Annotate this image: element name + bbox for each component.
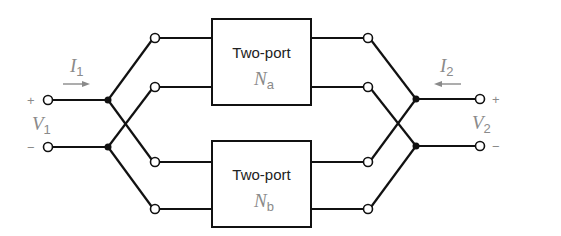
current-i2-arrow-icon [434, 81, 461, 87]
voltage-v1-label: V1 [32, 113, 51, 137]
terminal-port1-plus [44, 96, 53, 105]
terminal-nb-out-top [364, 158, 373, 167]
network-a-box [212, 19, 311, 105]
terminal-nb-in-top [151, 158, 160, 167]
network-b-label: Two-port [232, 166, 291, 183]
current-i1-label: I1 [69, 55, 84, 79]
current-i2-label: I2 [439, 55, 454, 79]
junction-dot [105, 97, 112, 104]
terminal-port1-minus [44, 143, 53, 152]
port2-wires [371, 40, 476, 207]
terminal-na-in-top [151, 34, 160, 43]
right-box-leads [311, 38, 364, 209]
port1-wires [52, 40, 152, 207]
terminal-port2-minus [476, 142, 485, 151]
port2-plus-sign: + [492, 92, 500, 107]
terminal-nb-in-bottom [151, 205, 160, 214]
left-box-leads [159, 38, 212, 209]
terminal-na-out-top [364, 34, 373, 43]
network-a-label: Two-port [232, 44, 291, 61]
terminal-port2-plus [476, 95, 485, 104]
terminal-na-out-bottom [364, 83, 373, 92]
circuit-svg: Two-port Na Two-port Nb I1 + V1 − I2 + V… [0, 0, 561, 236]
terminal-nb-out-bottom [364, 205, 373, 214]
two-port-parallel-diagram: Two-port Na Two-port Nb I1 + V1 − I2 + V… [0, 0, 561, 236]
port2-minus-sign: − [492, 139, 500, 154]
current-i1-arrow-icon [63, 81, 90, 87]
junction-dot [413, 143, 420, 150]
voltage-v2-label: V2 [472, 112, 491, 136]
junction-dot [413, 96, 420, 103]
network-b-box [212, 141, 311, 227]
port1-plus-sign: + [27, 93, 35, 108]
port1-minus-sign: − [27, 140, 35, 155]
junction-dot [105, 144, 112, 151]
terminal-na-in-bottom [151, 83, 160, 92]
